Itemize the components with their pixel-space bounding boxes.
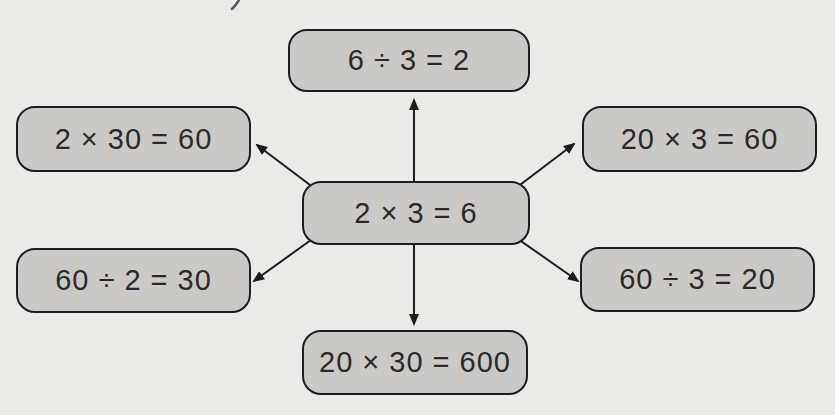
- node-lower-right: 60 ÷ 3 = 20: [580, 247, 815, 312]
- node-lower-left: 60 ÷ 2 = 30: [16, 248, 251, 313]
- node-upper-left: 2 × 30 = 60: [16, 106, 251, 172]
- node-bottom: 20 × 30 = 600: [302, 330, 528, 395]
- node-center: 2 × 3 = 6: [302, 181, 530, 245]
- node-upper-right: 20 × 3 = 60: [582, 106, 817, 172]
- fact-family-diagram: 6 ÷ 3 = 2 2 × 30 = 60 20 × 3 = 60 2 × 3 …: [0, 0, 835, 415]
- stray-mark: [232, 0, 239, 9]
- node-top: 6 ÷ 3 = 2: [288, 29, 530, 92]
